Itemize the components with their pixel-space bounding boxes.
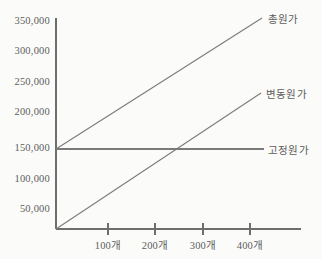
x-tick-label-200: 200개 [133, 237, 177, 252]
x-tick-label-400: 400개 [228, 237, 272, 252]
y-tick-label-300000: 300,000 [0, 45, 50, 56]
y-tick-label-200000: 200,000 [0, 106, 50, 117]
cost-volume-chart: 350,000 300,000 250,000 200,000 150,000 … [0, 0, 322, 259]
y-tick-label-100000: 100,000 [0, 173, 50, 184]
y-tick-label-350000: 350,000 [0, 15, 50, 26]
chart-plot-area [0, 0, 322, 259]
y-tick-label-250000: 250,000 [0, 76, 50, 87]
series-line-variable-cost [56, 93, 261, 229]
series-label-variable-cost: 변동원가 [266, 86, 307, 101]
y-tick-label-50000: 50,000 [0, 203, 50, 214]
x-tick-label-300: 300개 [181, 237, 225, 252]
series-label-fixed-cost: 고정원가 [268, 142, 309, 157]
series-line-total-cost [56, 18, 262, 149]
x-tick-label-100: 100개 [86, 237, 130, 252]
series-label-total-cost: 총원가 [268, 11, 299, 26]
y-tick-label-150000: 150,000 [0, 142, 50, 153]
